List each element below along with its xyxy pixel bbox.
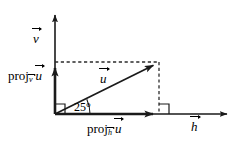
proj-h-operand: u (115, 122, 122, 135)
proj-v-subscript: v (29, 76, 33, 84)
proj-v-prefix: proj (8, 68, 29, 83)
axis-label-v-text: v (33, 32, 39, 45)
axis-label-h-text: h (191, 120, 198, 133)
vector-projection-figure: v h u projvu projhu 25° (0, 0, 243, 146)
axis-label-v: v (33, 32, 39, 45)
axis-label-h: h (191, 120, 198, 133)
right-angle-marker-foot (159, 104, 169, 114)
projection-label-onto-v: projvu (8, 69, 42, 84)
proj-v-operand: u (36, 69, 43, 82)
proj-h-subscript: h (108, 129, 112, 137)
vector-label-u: u (100, 72, 107, 85)
vector-label-u-text: u (100, 72, 107, 85)
proj-h-prefix: proj (87, 121, 108, 136)
angle-label-25-degrees: 25° (74, 101, 91, 113)
projection-label-onto-h: projhu (87, 122, 121, 137)
